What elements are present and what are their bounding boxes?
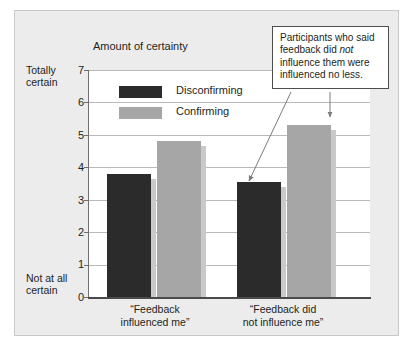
x-category-0-line1: “Feedback <box>130 303 180 315</box>
bar-confirming-feedback-influenced-me[interactable] <box>157 141 201 297</box>
y-tick-mark-0 <box>84 297 88 298</box>
callout-text-part1: Participants who said feedback did <box>280 32 375 55</box>
y-tick-label-7: 7 <box>68 65 84 75</box>
x-category-label-feedback-did-not-influence-me: “Feedback did not influence me” <box>218 303 348 329</box>
x-axis-line <box>88 297 371 299</box>
bar-shadow <box>281 187 286 297</box>
y-axis-bottom-label: Not at all certain <box>26 272 67 296</box>
y-tick-mark-5 <box>84 135 88 136</box>
annotation-callout: Participants who said feedback did not i… <box>272 26 389 89</box>
bar-shadow <box>151 179 156 297</box>
legend-item-disconfirming[interactable]: Disconfirming <box>119 84 279 101</box>
axis-title: Amount of certainty <box>93 40 188 52</box>
y-axis-top-label-line1: Totally <box>26 64 56 76</box>
bar-fill <box>107 174 151 297</box>
bar-fill <box>287 125 331 297</box>
y-tick-label-2: 2 <box>68 227 84 237</box>
y-axis-line <box>88 70 89 298</box>
legend-swatch-disconfirming <box>119 86 162 98</box>
x-category-1-line2: not influence me” <box>243 316 324 328</box>
legend-label-confirming: Confirming <box>176 105 229 117</box>
y-axis-bottom-label-line2: certain <box>26 284 58 296</box>
y-tick-label-0: 0 <box>68 292 84 302</box>
y-tick-mark-4 <box>84 167 88 168</box>
y-axis-top-label: Totally certain <box>26 64 58 88</box>
bar-fill <box>157 141 201 297</box>
y-tick-label-1: 1 <box>68 259 84 269</box>
callout-emphasis: not <box>340 44 354 55</box>
y-axis-ticks: 7 6 5 4 3 2 1 0 <box>66 0 84 361</box>
x-category-1-line1: “Feedback did <box>250 303 317 315</box>
y-tick-mark-1 <box>84 265 88 266</box>
x-category-0-line2: influenced me” <box>121 316 190 328</box>
legend-label-disconfirming: Disconfirming <box>176 84 243 96</box>
x-category-label-feedback-influenced-me: “Feedback influenced me” <box>90 303 220 329</box>
bar-disconfirming-feedback-influenced-me[interactable] <box>107 174 151 297</box>
callout-text-part2: influence them were influenced no less. <box>280 57 370 80</box>
y-axis-top-label-line2: certain <box>26 76 58 88</box>
y-axis-bottom-label-line1: Not at all <box>26 272 67 284</box>
legend: Disconfirming Confirming <box>119 84 279 126</box>
bar-shadow <box>201 146 206 297</box>
y-tick-label-4: 4 <box>68 162 84 172</box>
legend-item-confirming[interactable]: Confirming <box>119 105 279 122</box>
y-tick-label-6: 6 <box>68 97 84 107</box>
bar-confirming-feedback-did-not-influence-me[interactable] <box>287 125 331 297</box>
y-tick-mark-7 <box>84 70 88 71</box>
y-tick-label-5: 5 <box>68 130 84 140</box>
y-tick-mark-2 <box>84 232 88 233</box>
legend-swatch-confirming <box>119 107 162 119</box>
bar-disconfirming-feedback-did-not-influence-me[interactable] <box>237 182 281 297</box>
y-tick-mark-3 <box>84 200 88 201</box>
figure-container: 7 6 5 4 3 2 1 0 Amount of certainty Tota… <box>0 0 415 361</box>
bar-shadow <box>331 130 336 297</box>
bar-fill <box>237 182 281 297</box>
y-tick-label-3: 3 <box>68 195 84 205</box>
y-tick-mark-6 <box>84 102 88 103</box>
